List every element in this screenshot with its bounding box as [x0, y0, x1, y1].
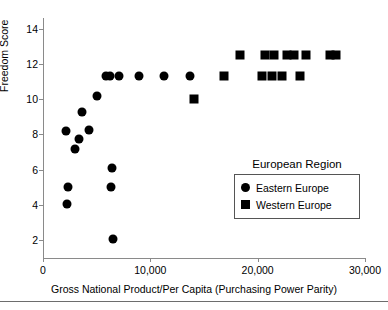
- data-point: [115, 72, 124, 81]
- data-point: [261, 51, 270, 60]
- data-point: [268, 72, 277, 81]
- square-marker-icon: [241, 200, 250, 209]
- legend-entry-western-europe[interactable]: Western Europe: [241, 196, 353, 213]
- data-point: [235, 51, 244, 60]
- x-axis-title: Gross National Product/Per Capita (Purch…: [0, 283, 388, 295]
- y-axis-tick-label: 12: [26, 58, 38, 70]
- data-point: [189, 95, 198, 104]
- y-axis-tick-label: 10: [26, 93, 38, 105]
- footer-divider: [0, 301, 388, 302]
- data-point: [160, 72, 169, 81]
- y-axis-tick: [39, 240, 43, 241]
- data-point: [301, 51, 310, 60]
- circle-marker-icon: [241, 183, 250, 192]
- x-axis-tick-label: 0: [40, 264, 46, 276]
- legend-box: Eastern Europe Western Europe: [234, 174, 360, 219]
- data-point: [62, 200, 71, 209]
- x-axis-tick-label: 30,000: [349, 264, 381, 276]
- data-point: [70, 145, 79, 154]
- scatter-chart: Freedom Score Gross National Product/Per…: [0, 0, 388, 310]
- data-point: [289, 51, 298, 60]
- y-axis-tick-label: 2: [32, 234, 38, 246]
- data-point: [106, 183, 115, 192]
- plot-area: 2468101214 010,00020,00030,000: [43, 18, 365, 258]
- y-axis-tick: [39, 64, 43, 65]
- legend-entry-eastern-europe[interactable]: Eastern Europe: [241, 179, 353, 196]
- data-point: [64, 183, 73, 192]
- x-axis-tick: [365, 258, 366, 262]
- x-axis-tick-label: 10,000: [134, 264, 166, 276]
- data-point: [107, 164, 116, 173]
- data-point: [186, 72, 195, 81]
- y-axis-tick-label: 4: [32, 199, 38, 211]
- legend: European Region Eastern Europe Western E…: [234, 158, 360, 219]
- y-axis-tick-label: 14: [26, 23, 38, 35]
- data-point: [93, 91, 102, 100]
- y-axis-tick: [39, 205, 43, 206]
- data-point: [295, 72, 304, 81]
- data-point: [108, 234, 117, 243]
- data-point: [106, 72, 115, 81]
- y-axis-tick: [39, 99, 43, 100]
- data-point: [62, 126, 71, 135]
- x-axis-tick: [43, 258, 44, 262]
- x-axis-line: [43, 258, 366, 259]
- data-point: [84, 126, 93, 135]
- legend-label: Eastern Europe: [256, 182, 329, 194]
- y-axis-tick: [39, 134, 43, 135]
- data-point: [74, 134, 83, 143]
- data-point: [78, 107, 87, 116]
- data-point: [257, 72, 266, 81]
- x-axis-tick: [258, 258, 259, 262]
- legend-label: Western Europe: [256, 199, 332, 211]
- y-axis-tick-label: 8: [32, 128, 38, 140]
- data-point: [270, 51, 279, 60]
- x-axis-tick-label: 20,000: [242, 264, 274, 276]
- y-axis-tick-label: 6: [32, 164, 38, 176]
- y-axis-title: Freedom Score: [0, 20, 10, 92]
- data-point: [332, 51, 341, 60]
- y-axis-tick: [39, 170, 43, 171]
- y-axis-tick: [39, 29, 43, 30]
- legend-title: European Region: [234, 158, 360, 170]
- data-point: [134, 72, 143, 81]
- x-axis-tick: [150, 258, 151, 262]
- data-point: [277, 72, 286, 81]
- data-point: [220, 72, 229, 81]
